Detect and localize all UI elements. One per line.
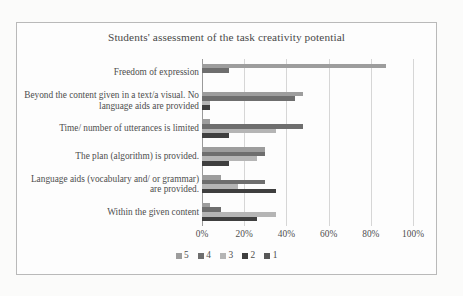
bar-series-4	[202, 96, 295, 101]
legend-item[interactable]: 2	[242, 251, 255, 260]
plot-area	[202, 59, 413, 226]
bar-series-4	[202, 68, 229, 73]
chart-legend: 54321	[17, 251, 436, 260]
legend-item[interactable]: 1	[264, 251, 277, 260]
x-tick-label: 100%	[402, 229, 424, 239]
x-tick-label: 80%	[362, 229, 379, 239]
y-axis-label: Language aids (vocabulary and/ or gramma…	[23, 174, 199, 195]
chart-title: Students' assessment of the task creativ…	[17, 31, 436, 43]
legend-swatch-icon	[242, 253, 248, 259]
y-axis-label: The plan (algorithm) is provided.	[23, 151, 199, 162]
bar-series-2	[202, 133, 229, 138]
bar-series-2	[202, 217, 257, 222]
x-tick-label: 40%	[278, 229, 295, 239]
x-tick-label: 20%	[236, 229, 253, 239]
legend-swatch-icon	[176, 253, 182, 259]
gridline-100	[413, 59, 414, 226]
legend-label: 5	[184, 251, 189, 260]
legend-swatch-icon	[220, 253, 226, 259]
legend-label: 3	[228, 251, 233, 260]
y-axis-category-labels: Freedom of expressionBeyond the content …	[23, 59, 199, 226]
legend-label: 1	[273, 251, 278, 260]
bar-series-5	[202, 64, 386, 69]
legend-label: 4	[206, 251, 211, 260]
y-axis-label: Within the given content	[23, 207, 199, 218]
y-axis-label: Time/ number of utterances is limited	[23, 123, 199, 134]
bar-group	[202, 198, 413, 226]
bar-group	[202, 170, 413, 198]
bar-group	[202, 115, 413, 143]
chart-frame: Students' assessment of the task creativ…	[16, 22, 437, 275]
x-tick-label: 60%	[320, 229, 337, 239]
bar-series-2	[202, 161, 229, 166]
bar-group	[202, 143, 413, 171]
bar-series-2	[202, 105, 210, 110]
legend-label: 2	[251, 251, 256, 260]
y-axis-label: Freedom of expression	[23, 67, 199, 78]
y-axis-label: Beyond the content given in a text/a vis…	[23, 90, 199, 111]
bar-group	[202, 87, 413, 115]
chart-page: Students' assessment of the task creativ…	[0, 0, 463, 296]
legend-swatch-icon	[198, 253, 204, 259]
legend-item[interactable]: 5	[176, 251, 189, 260]
legend-item[interactable]: 4	[198, 251, 211, 260]
legend-swatch-icon	[264, 253, 270, 259]
legend-item[interactable]: 3	[220, 251, 233, 260]
x-tick-label: 0%	[196, 229, 209, 239]
bar-group	[202, 59, 413, 87]
bar-series-2	[202, 189, 276, 194]
x-axis-tick-labels: 0%20%40%60%80%100%	[202, 229, 413, 245]
